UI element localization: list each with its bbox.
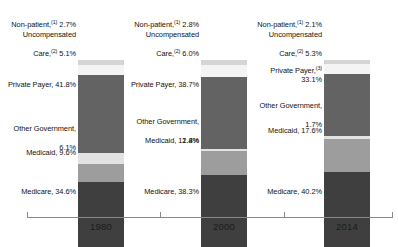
bar-segment-private-payer [201,77,247,149]
x-axis-line [27,217,393,218]
bar-segment-medicaid [201,151,247,175]
bar-1980 [78,60,124,247]
label-2000-medicaid: Medicaid, 12.8% [127,127,199,145]
bar-segment-private-payer [324,74,370,136]
label-2014-uncompensated-care: Uncompensated Care,(2) 5.3% [250,21,322,58]
stacked-bar-chart: 1980 2000 2014 Non-patient,(1) 2.7% Unco… [0,0,398,247]
bar-segment-uncompensated-care [78,65,124,75]
label-2000-medicare: Medicare, 38.3% [127,178,199,196]
label-2000-uncompensated-care: Uncompensated Care,(2) 6.0% [127,21,199,58]
label-2014-medicaid: Medicaid, 17.6% [250,117,322,135]
x-tick-label-2014: 2014 [302,221,392,232]
label-2014-private-payer: Private Payer,(3) 33.1% [250,57,322,85]
label-2014-medicare: Medicare, 40.2% [250,178,322,196]
x-tick-label-1980: 1980 [56,221,146,232]
label-1980-uncompensated-care: Uncompensated Care,(2) 5.1% [4,21,76,58]
x-tick-label-2000: 2000 [179,221,269,232]
label-2000-private-payer: Private Payer, 38.7% [127,71,199,89]
bar-2014 [324,60,370,247]
bar-segment-uncompensated-care [201,65,247,76]
bar-segment-medicaid [78,164,124,182]
bar-segment-medicare [201,175,247,247]
x-axis-tick [284,212,285,218]
bar-segment-medicare [324,172,370,247]
x-axis-tick [27,212,28,218]
label-1980-medicaid: Medicaid, 9.6% [4,139,76,157]
bar-segment-private-payer [78,75,124,153]
bar-segment-other-government [78,153,124,164]
bar-segment-medicare [78,182,124,247]
bar-segment-medicaid [324,139,370,172]
x-axis-tick [160,212,161,218]
x-axis-tick [392,212,393,218]
plot-area: 1980 2000 2014 Non-patient,(1) 2.7% Unco… [0,0,398,247]
bar-segment-uncompensated-care [324,64,370,74]
label-1980-private-payer: Private Payer, 41.8% [4,71,76,89]
bar-2000 [201,60,247,247]
label-1980-medicare: Medicare, 34.6% [4,178,76,196]
